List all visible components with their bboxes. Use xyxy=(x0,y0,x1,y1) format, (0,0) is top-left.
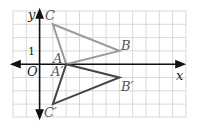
y-tick-label-1: 1 xyxy=(28,45,35,58)
point-label-c: C xyxy=(45,8,55,23)
coordinate-plane: y x O 1 C B A A′ B′ C′ xyxy=(0,0,198,121)
x-axis-label: x xyxy=(176,68,184,83)
axes xyxy=(12,10,184,118)
origin-label: O xyxy=(27,64,38,79)
point-label-a-prime: A′ xyxy=(50,64,63,79)
triangle-abc xyxy=(53,24,120,64)
point-label-b-prime: B′ xyxy=(120,79,134,94)
x-axis-arrow-right xyxy=(176,61,184,67)
y-axis-label: y xyxy=(27,7,36,22)
point-label-b: B xyxy=(120,38,131,53)
point-label-c-prime: C′ xyxy=(44,105,57,120)
